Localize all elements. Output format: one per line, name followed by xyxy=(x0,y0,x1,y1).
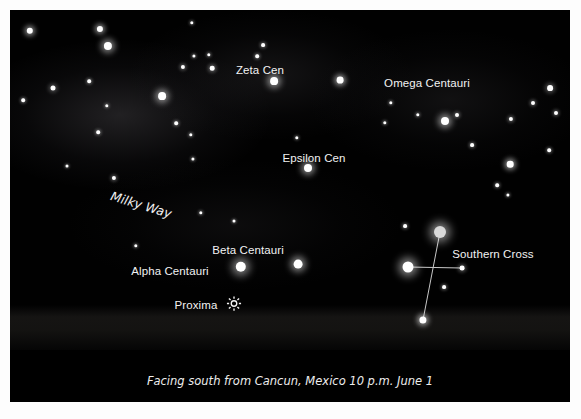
sky-canvas: Zeta CenOmega CentauriEpsilon CenBeta Ce… xyxy=(10,10,570,402)
star-label-zeta-cen: Zeta Cen xyxy=(236,64,284,76)
star xyxy=(403,224,407,228)
star xyxy=(233,220,236,223)
star xyxy=(192,54,195,57)
star xyxy=(547,85,553,91)
star xyxy=(191,157,194,160)
star xyxy=(442,285,446,289)
star xyxy=(51,86,56,91)
star xyxy=(181,65,185,69)
star xyxy=(270,77,278,85)
star xyxy=(403,262,414,273)
star xyxy=(460,266,465,271)
star xyxy=(66,165,69,168)
star xyxy=(304,164,312,172)
star xyxy=(495,183,499,187)
star xyxy=(97,26,103,32)
star xyxy=(455,113,459,117)
star xyxy=(236,262,246,272)
star-label-beta-centauri: Beta Centauri xyxy=(212,244,284,256)
star xyxy=(416,113,419,116)
star xyxy=(174,121,178,125)
star-label-omega-centauri: Omega Centauri xyxy=(384,77,470,89)
southern-cross-horizontal xyxy=(408,267,462,268)
star xyxy=(419,316,426,323)
southern-cross-lines xyxy=(10,10,570,402)
star xyxy=(441,117,449,125)
star xyxy=(190,21,193,24)
star-chart-figure: Zeta CenOmega CentauriEpsilon CenBeta Ce… xyxy=(0,0,581,419)
star xyxy=(294,260,303,269)
star xyxy=(27,28,33,34)
milky-way-haze-1 xyxy=(10,40,270,190)
milky-way-haze-4 xyxy=(70,160,400,290)
star-label-alpha-centauri: Alpha Centauri xyxy=(131,265,208,277)
star xyxy=(87,79,91,83)
star xyxy=(470,143,474,147)
star xyxy=(199,211,202,214)
star xyxy=(383,121,386,124)
star xyxy=(105,104,108,107)
star xyxy=(158,92,166,100)
milky-way-haze-3 xyxy=(310,30,570,170)
star xyxy=(547,148,551,152)
star xyxy=(112,176,116,180)
star xyxy=(210,66,215,71)
star-label-proxima: Proxima xyxy=(175,299,218,311)
star xyxy=(507,161,514,168)
southern-cross-vertical xyxy=(423,232,440,320)
star-label-southern-cross: Southern Cross xyxy=(452,248,533,260)
star xyxy=(21,98,25,102)
star xyxy=(295,136,298,139)
milky-way-label: Milky Way xyxy=(109,188,174,221)
star xyxy=(104,42,112,50)
star xyxy=(337,77,344,84)
star xyxy=(506,193,509,196)
star xyxy=(261,43,265,47)
star xyxy=(434,226,446,238)
chart-caption: Facing south from Cancun, Mexico 10 p.m.… xyxy=(147,374,433,388)
star xyxy=(509,117,513,121)
star xyxy=(189,133,192,136)
horizon-treeline xyxy=(10,305,570,360)
star xyxy=(96,130,100,134)
proxima-starburst-icon xyxy=(227,296,242,314)
star xyxy=(389,101,392,104)
star xyxy=(207,53,210,56)
star-label-epsilon-cen: Epsilon Cen xyxy=(282,152,345,164)
star xyxy=(134,244,137,247)
star xyxy=(255,54,259,58)
star xyxy=(531,101,535,105)
star xyxy=(554,111,558,115)
